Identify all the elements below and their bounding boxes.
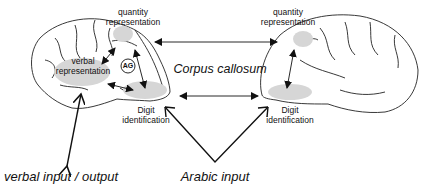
verbal-representation-label: verbal representation bbox=[52, 57, 114, 77]
ag-label: AG bbox=[121, 62, 135, 70]
arabic-input-label: Arabic input bbox=[170, 170, 260, 185]
left-digit-label: Digit identification bbox=[118, 106, 174, 126]
triple-code-model-diagram: quantity representation verbal represent… bbox=[0, 0, 427, 196]
label-line: identification bbox=[118, 116, 174, 126]
left-quantity-label: quantity representation bbox=[100, 8, 166, 28]
label-line: representation bbox=[52, 67, 114, 77]
verbal-io-label: verbal input / output bbox=[4, 170, 134, 185]
right-quantity-label: quantity representation bbox=[255, 8, 321, 28]
right-digit-label: Digit identification bbox=[262, 106, 318, 126]
label-line: representation bbox=[255, 18, 321, 28]
label-line: identification bbox=[262, 116, 318, 126]
label-line: representation bbox=[100, 18, 166, 28]
corpus-callosum-label: Corpus callosum bbox=[170, 62, 270, 76]
brain-diagram-graphic bbox=[0, 0, 427, 196]
